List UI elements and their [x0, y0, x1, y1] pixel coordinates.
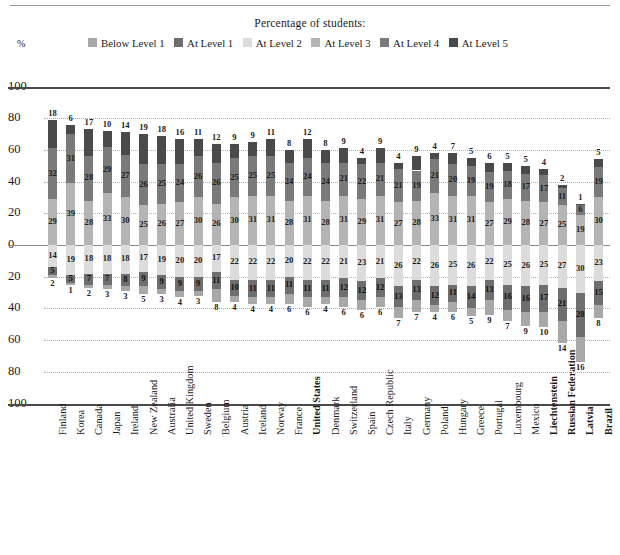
- bar-column[interactable]: 2819922137Germany: [412, 0, 421, 555]
- bar-segment-below1[interactable]: [467, 308, 476, 316]
- bar-segment-lvl5[interactable]: [285, 150, 294, 163]
- bar-segment-below1[interactable]: [412, 300, 421, 311]
- bar-value-label: 17: [516, 182, 535, 191]
- bar-value-label: 27: [480, 219, 499, 228]
- bar-column[interactable]: 2824822114Denmark: [321, 0, 330, 555]
- bar-column[interactable]: 2721426137Italy: [394, 0, 403, 555]
- bar-segment-below1[interactable]: [558, 321, 567, 343]
- bar-segment-lvl5[interactable]: [539, 169, 548, 175]
- bar-segment-lvl5[interactable]: [103, 131, 112, 147]
- bar-column[interactable]: 3026112093Sweden: [194, 0, 203, 555]
- bar-segment-lvl5[interactable]: [448, 153, 457, 164]
- bar-segment-below1[interactable]: [266, 297, 275, 303]
- bar-column[interactable]: 31251122114Norway: [266, 0, 275, 555]
- bar-column[interactable]: 3121921126Switzerland: [339, 0, 348, 555]
- bar-column[interactable]: 3027141883Ireland: [121, 0, 130, 555]
- bar-segment-lvl5[interactable]: [157, 136, 166, 165]
- bar-segment-lvl5[interactable]: [558, 185, 567, 188]
- bar-segment-below1[interactable]: [139, 286, 148, 294]
- bar-segment-below1[interactable]: [485, 300, 494, 314]
- bar-column[interactable]: 3119526145Greece: [467, 0, 476, 555]
- bar-segment-lvl5[interactable]: [321, 150, 330, 163]
- bar-segment-lvl5[interactable]: [376, 148, 385, 162]
- bar-segment-below1[interactable]: [357, 300, 366, 310]
- bar-segment-lvl5[interactable]: [139, 134, 148, 164]
- bar-column[interactable]: 2724162094United Kingdom: [175, 0, 184, 555]
- bar-segment-lvl5[interactable]: [194, 139, 203, 156]
- bar-segment-lvl5[interactable]: [212, 144, 221, 163]
- bar-segment-below1[interactable]: [448, 302, 457, 312]
- bar-segment-below1[interactable]: [212, 289, 221, 302]
- bar-column[interactable]: 3321426124Poland: [430, 0, 439, 555]
- bar-column[interactable]: 2719622139Portugal: [485, 0, 494, 555]
- bar-column[interactable]: 3025922104Austria: [230, 0, 239, 555]
- bar-segment-lvl5[interactable]: [412, 156, 421, 170]
- bar-column[interactable]: 2817526169Mexico: [521, 0, 530, 555]
- bar-segment-below1[interactable]: [430, 305, 439, 311]
- bar-segment-lvl5[interactable]: [467, 158, 476, 166]
- bar-value-label: 7: [389, 319, 408, 328]
- bar-value-label: 24: [298, 172, 317, 181]
- bar-segment-below1[interactable]: [285, 294, 294, 304]
- bar-segment-below1[interactable]: [539, 312, 548, 328]
- bar-column[interactable]: 3121921126Czech Republic: [376, 0, 385, 555]
- bar-column[interactable]: 2625181993Australia: [157, 0, 166, 555]
- bar-column[interactable]: 393161951Korea: [66, 0, 75, 555]
- bar-value-label: 5: [61, 274, 80, 283]
- bar-segment-lvl5[interactable]: [503, 163, 512, 171]
- bar-value-label: 2: [79, 289, 98, 298]
- bar-segment-lvl5[interactable]: [430, 153, 439, 159]
- bar-segment-below1[interactable]: [503, 310, 512, 321]
- bar-column[interactable]: 3120725116Hungary: [448, 0, 457, 555]
- bar-segment-below1[interactable]: [339, 297, 348, 307]
- bar-segment-lvl5[interactable]: [266, 139, 275, 156]
- bar-segment-lvl5[interactable]: [357, 158, 366, 164]
- bar-segment-lvl5[interactable]: [576, 204, 585, 206]
- bar-column[interactable]: 27174251710Liechtenstein: [539, 0, 548, 555]
- bar-segment-below1[interactable]: [376, 297, 385, 307]
- bar-column[interactable]: 2922423126Spain: [357, 0, 366, 555]
- bar-segment-lvl5[interactable]: [66, 125, 75, 135]
- bar-column[interactable]: 2918525167Luxembourg: [503, 0, 512, 555]
- bar-value-label: 11: [443, 288, 462, 297]
- bar-segment-lvl5[interactable]: [48, 120, 57, 149]
- bar-segment-lvl5[interactable]: [303, 139, 312, 158]
- bar-segment-lvl5[interactable]: [339, 148, 348, 162]
- bar-value-label: 10: [225, 283, 244, 292]
- bar-value-label: 31: [61, 154, 80, 163]
- bar-segment-lvl5[interactable]: [485, 163, 494, 173]
- bar-segment-below1[interactable]: [576, 337, 585, 362]
- bar-column[interactable]: 3125922114Iceland: [248, 0, 257, 555]
- bar-segment-lvl5[interactable]: [84, 129, 93, 156]
- bar-column[interactable]: 1961302816Latvia: [576, 0, 585, 555]
- bar-segment-lvl5[interactable]: [521, 166, 530, 174]
- bar-value-label: 18: [43, 109, 62, 118]
- bar-segment-lvl5[interactable]: [394, 163, 403, 169]
- bar-column[interactable]: 3329101873Japan: [103, 0, 112, 555]
- bar-value-label: 30: [589, 216, 608, 225]
- bar-value-label: 11: [280, 280, 299, 289]
- bar-segment-lvl5[interactable]: [248, 142, 257, 156]
- bar-segment-lvl5[interactable]: [594, 159, 603, 167]
- bar-segment-below1[interactable]: [303, 297, 312, 307]
- bar-column[interactable]: 2526191795New Zealand: [139, 0, 148, 555]
- bar-segment-below1[interactable]: [394, 307, 403, 318]
- bar-segment-lvl5[interactable]: [230, 144, 239, 158]
- bar-segment-below1[interactable]: [248, 297, 257, 303]
- bar-segment-below1[interactable]: [321, 297, 330, 303]
- bar-column[interactable]: 2824820116France: [285, 0, 294, 555]
- bar-segment-lvl5[interactable]: [175, 139, 184, 164]
- bar-column[interactable]: 2828171872Canada: [84, 0, 93, 555]
- bar-column[interactable]: 25112272114Russian Federation: [558, 0, 567, 555]
- bar-value-label: 14: [462, 292, 481, 301]
- bar-segment-lvl5[interactable]: [121, 132, 130, 154]
- bar-segment-below1[interactable]: [594, 305, 603, 318]
- bar-column[interactable]: 2932181452Finland: [48, 0, 57, 555]
- bar-value-label: 19: [61, 255, 80, 264]
- bar-segment-below1[interactable]: [194, 291, 203, 296]
- bar-column[interactable]: 31241222116United States: [303, 0, 312, 555]
- bar-column[interactable]: 3019523158Brazil: [594, 0, 603, 555]
- bar-column[interactable]: 26261217118Belgium: [212, 0, 221, 555]
- x-axis-country-label: Brazil: [603, 408, 614, 435]
- bar-segment-below1[interactable]: [521, 312, 530, 326]
